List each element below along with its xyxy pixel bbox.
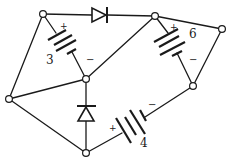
circuit-diagram: + − 3 + − 6 + − 4: [0, 0, 232, 159]
node-A: [40, 11, 47, 18]
node-E: [6, 96, 13, 103]
diode-triangle-icon: [92, 8, 106, 22]
battery-4: + − 4: [86, 86, 193, 153]
battery-6-label: 6: [189, 27, 197, 41]
diode-top-lead-right: [107, 15, 155, 16]
battery-6-minus-sign: −: [189, 54, 197, 65]
diode-center: [77, 79, 96, 153]
battery-plate: [140, 110, 146, 121]
battery-4-minus-sign: −: [148, 99, 156, 110]
node-G: [83, 150, 90, 157]
wire-A-E: [9, 14, 43, 99]
battery-4-label: 4: [140, 136, 148, 150]
battery-4-plus-sign: +: [109, 123, 117, 133]
diode-top-lead-left: [43, 14, 92, 15]
battery-4-lead-plus: [86, 133, 122, 153]
battery-plate: [125, 117, 136, 135]
battery-plate: [67, 49, 76, 54]
battery-3-plus-sign: +: [60, 21, 68, 31]
battery-3-minus-sign: −: [86, 54, 94, 65]
battery-3: + − 3: [43, 14, 94, 79]
diode-triangle-icon: [78, 107, 94, 121]
node-C: [219, 26, 226, 33]
battery-6-plus-sign: +: [170, 22, 178, 32]
wire-D-B: [86, 16, 155, 79]
battery-3-lead-minus: [72, 52, 86, 79]
node-D: [83, 76, 90, 83]
battery-6: + − 6: [154, 16, 197, 86]
node-B: [152, 13, 159, 20]
battery-plate: [48, 30, 66, 40]
wire-E-D: [9, 79, 86, 99]
battery-3-label: 3: [46, 53, 54, 67]
node-F: [190, 83, 197, 90]
wire-E-G: [9, 99, 86, 153]
